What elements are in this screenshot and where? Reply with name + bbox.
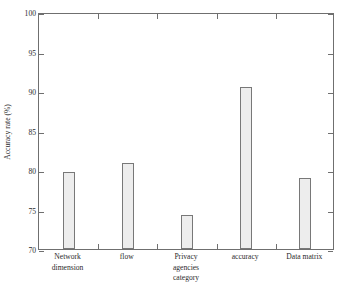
y-tick-mark [39,14,44,15]
x-tick-mark [98,244,99,249]
y-tick-mark [39,172,44,173]
x-tick-mark-top [157,14,158,19]
y-tick-mark-right [328,172,333,173]
bar [181,215,193,249]
plot-area: 707580859095100 [38,13,334,250]
x-tick-mark-top [276,14,277,19]
x-tick-mark [217,244,218,249]
y-tick-label: 90 [28,89,36,97]
y-tick-mark-right [328,54,333,55]
x-tick-mark [157,244,158,249]
x-tick-label: Data matrix [267,252,341,263]
x-tick-mark-top [217,14,218,19]
y-tick-mark [39,93,44,94]
y-tick-label: 85 [28,129,36,137]
y-tick-mark [39,133,44,134]
y-tick-label: 100 [25,10,36,18]
bar [240,87,252,249]
y-tick-label: 80 [28,168,36,176]
y-axis-label: Accuracy rate (%) [0,0,17,263]
y-tick-mark-right [328,133,333,134]
bar [299,178,311,249]
y-tick-mark-right [328,14,333,15]
y-tick-mark-right [328,212,333,213]
y-tick-mark-right [328,93,333,94]
bar [63,172,75,249]
y-tick-mark [39,54,44,55]
y-tick-label: 75 [28,208,36,216]
bar-chart-figure: Accuracy rate (%) 707580859095100 Networ… [0,0,346,293]
y-tick-label: 95 [28,50,36,58]
y-axis-label-text: Accuracy rate (%) [3,104,12,160]
x-tick-mark-top [98,14,99,19]
x-tick-mark [276,244,277,249]
bar [122,163,134,249]
y-tick-mark [39,212,44,213]
